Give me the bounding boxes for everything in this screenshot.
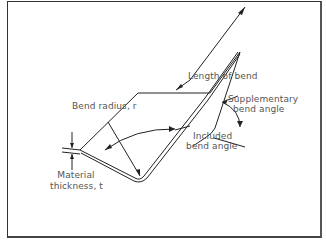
bend-diagram	[0, 0, 326, 244]
label-supplementary-angle-2: bend angle	[233, 104, 285, 114]
label-material-thickness-1: Material	[56, 170, 96, 180]
label-included-angle-1: Included	[193, 131, 232, 141]
label-length-of-bend: Length of bend	[188, 71, 258, 81]
label-bend-radius: Bend radius, r	[72, 101, 137, 111]
label-material-thickness-2: thickness, t	[50, 181, 102, 191]
label-supplementary-angle-1: Supplementary	[228, 94, 298, 104]
label-included-angle-2: bend angle	[186, 141, 238, 151]
